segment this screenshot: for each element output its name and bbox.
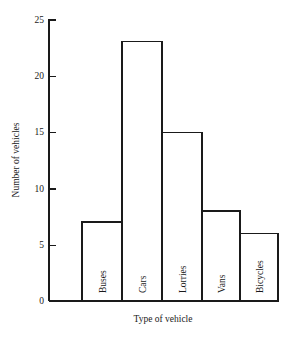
- y-tick-label-20: 20: [35, 71, 45, 81]
- chart-canvas: 25 20 15 10 5 0 Buses Cars Lorries Vans …: [0, 0, 293, 339]
- bar-label-vans: Vans: [217, 274, 227, 293]
- bar-cars[interactable]: [122, 42, 162, 301]
- y-tick-label-0: 0: [39, 296, 44, 306]
- y-axis-tick-labels: 25 20 15 10 5 0: [35, 15, 45, 306]
- y-tick-label-25: 25: [35, 15, 45, 25]
- y-tick-label-10: 10: [35, 184, 45, 194]
- bar-label-buses: Buses: [98, 270, 108, 293]
- bar-series: [82, 42, 278, 301]
- bar-label-bicycles: Bicycles: [255, 260, 265, 293]
- y-axis-title: Number of vehicles: [11, 122, 21, 197]
- y-tick-label-15: 15: [35, 127, 45, 137]
- bar-chart: 25 20 15 10 5 0 Buses Cars Lorries Vans …: [0, 0, 293, 339]
- y-tick-label-5: 5: [39, 240, 44, 250]
- bar-label-lorries: Lorries: [178, 265, 188, 293]
- x-axis-title: Type of vehicle: [134, 314, 193, 324]
- bar-label-cars: Cars: [138, 275, 148, 293]
- y-axis-ticks: [49, 20, 56, 246]
